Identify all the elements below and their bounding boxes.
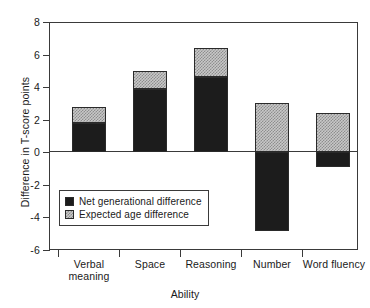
legend-item-expected-age: Expected age difference	[65, 208, 203, 221]
bar-verbal-meaning-net	[72, 123, 106, 152]
x-tick-mark-2	[180, 250, 181, 257]
y-tick-label-4: 4	[14, 81, 40, 93]
y-tick-label-neg6: -6	[14, 244, 40, 256]
x-tick-mark-3	[241, 250, 242, 257]
x-category-label-word-fluency: Word fluency	[299, 259, 369, 271]
y-tick-mark-4	[43, 87, 50, 88]
y-tick-label-8: 8	[14, 16, 40, 28]
x-category-label-number: Number	[242, 259, 302, 271]
y-tick-mark-neg2	[43, 185, 50, 186]
bar-number-net	[255, 152, 289, 231]
bar-verbal-meaning-expected	[72, 107, 106, 123]
bar-reasoning-net	[194, 77, 228, 152]
y-tick-label-neg2: -2	[14, 179, 40, 191]
y-tick-label-6: 6	[14, 49, 40, 61]
y-tick-mark-0	[43, 152, 50, 153]
y-tick-label-neg4: -4	[14, 211, 40, 223]
bar-number-expected	[255, 103, 289, 152]
x-category-label-verbal-meaning-line1: Verbal	[59, 259, 119, 271]
bar-word-fluency-expected	[316, 113, 350, 152]
y-tick-mark-neg4	[43, 217, 50, 218]
x-tick-mark-1	[119, 250, 120, 257]
bar-word-fluency-net	[316, 152, 350, 167]
y-tick-mark-6	[43, 55, 50, 56]
legend-label-expected-age: Expected age difference	[79, 209, 189, 220]
x-category-label-verbal-meaning-line2: meaning	[59, 271, 119, 283]
legend-swatch-net-generational-icon	[65, 197, 74, 206]
x-category-label-space: Space	[120, 259, 180, 271]
bar-space-net	[133, 89, 167, 152]
x-tick-mark-4	[302, 250, 303, 257]
legend-label-net-generational: Net generational difference	[79, 196, 202, 207]
y-tick-mark-8	[43, 22, 50, 23]
legend-swatch-expected-age-icon	[65, 210, 74, 219]
bar-space-expected	[133, 71, 167, 90]
x-category-label-reasoning: Reasoning	[178, 259, 244, 271]
y-tick-label-2: 2	[14, 114, 40, 126]
y-tick-label-0: 0	[14, 146, 40, 158]
x-tick-mark-0	[58, 250, 59, 257]
x-category-label-verbal-meaning: Verbal meaning	[59, 259, 119, 282]
y-tick-mark-neg6	[43, 250, 50, 251]
y-tick-mark-2	[43, 120, 50, 121]
bar-chart: Difference in T-score points 8 6 4 2 0 -…	[0, 0, 370, 308]
legend-item-net-generational: Net generational difference	[65, 195, 203, 208]
chart-legend: Net generational difference Expected age…	[59, 190, 209, 226]
x-axis-title: Ability	[0, 288, 370, 300]
bar-reasoning-expected	[194, 48, 228, 77]
